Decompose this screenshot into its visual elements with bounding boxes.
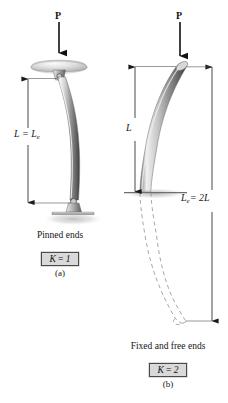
panel-a-graphics: [28, 22, 104, 226]
buckling-figure: P L = Le Pinned ends K = 1 (a) P L Le= 2…: [0, 0, 228, 403]
length-label-a-sub: e: [37, 133, 40, 141]
fixed-base-b: [123, 188, 187, 199]
k-value-box-a: K = 1: [41, 252, 78, 266]
top-pin-joint-a: [53, 70, 66, 80]
support-caption-a: Pinned ends: [0, 230, 120, 240]
length-label-b: L: [126, 122, 132, 133]
panel-b-graphics: [123, 22, 212, 325]
effective-length-label-b: Le= 2L: [181, 192, 209, 205]
k-number-b: 2: [174, 365, 179, 375]
k-equals-a: =: [56, 254, 66, 264]
support-caption-b: Fixed and free ends: [108, 341, 228, 351]
k-box-wrapper-a: K = 1: [0, 248, 120, 266]
panel-label-b: (b): [108, 379, 228, 389]
k-number-a: 1: [66, 254, 71, 264]
panel-label-a: (a): [0, 268, 120, 278]
column-b: [140, 60, 189, 192]
top-bearing-plate-a: [31, 60, 87, 74]
bottom-pin-joint-a: [66, 199, 82, 213]
load-label-a: P: [55, 10, 61, 21]
length-label-a-main: L = L: [14, 128, 37, 139]
bottom-base-plate-a: [42, 212, 104, 225]
k-value-box-b: K = 2: [149, 363, 186, 377]
dimension-line-a: [28, 79, 70, 204]
k-box-wrapper-b: K = 2: [108, 359, 228, 377]
effective-length-label-b-main: = 2L: [190, 192, 210, 203]
k-equals-b: =: [164, 365, 174, 375]
length-label-a: L = Le: [14, 128, 40, 141]
mirrored-dashed-curve-b: [140, 193, 186, 325]
dimension-line-b-L: [135, 67, 176, 193]
column-a: [58, 77, 80, 200]
load-label-b: P: [176, 10, 182, 21]
